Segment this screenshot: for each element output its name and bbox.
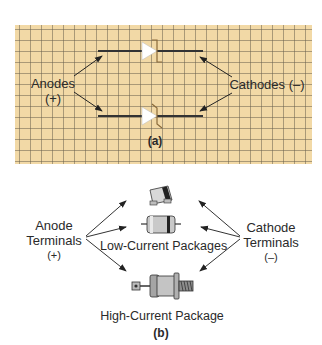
anode-terminals-line3: (+)	[22, 248, 86, 263]
cathode-terminals-line2: Terminals	[236, 235, 306, 250]
caption-b: (b)	[146, 326, 176, 340]
zener-diode-figure: Anodes (+) Cathodes (–) (a) Anode Termin…	[0, 0, 322, 345]
cathode-terminals-line1: Cathode	[236, 220, 306, 235]
anodes-label: Anodes (+)	[28, 76, 78, 106]
anode-terminals-label: Anode Terminals (+)	[22, 218, 86, 263]
anode-arrows-b	[86, 201, 126, 271]
zener-symbol-top-icon	[98, 40, 203, 62]
cathode-arrows-b	[199, 201, 240, 271]
anodes-polarity-text: (+)	[28, 91, 78, 106]
high-current-label: High-Current Package	[100, 309, 224, 324]
diagram-graphics	[0, 0, 322, 345]
low-current-label: Low-Current Packages	[100, 239, 224, 254]
cathode-terminals-label: Cathode Terminals (–)	[236, 220, 306, 265]
axial-diode-package-icon	[141, 216, 181, 233]
cathodes-label: Cathodes (–)	[227, 77, 307, 92]
stud-mount-diode-package-icon	[132, 273, 193, 299]
cathode-terminals-line3: (–)	[236, 250, 306, 265]
caption-a: (a)	[140, 134, 170, 148]
anode-arrows-a	[74, 56, 102, 111]
anode-terminals-line2: Terminals	[22, 233, 86, 248]
zener-symbol-bottom-icon	[98, 104, 203, 128]
anode-terminals-line1: Anode	[22, 218, 86, 233]
smd-diode-package-icon	[150, 186, 172, 205]
anodes-label-text: Anodes	[28, 76, 78, 91]
